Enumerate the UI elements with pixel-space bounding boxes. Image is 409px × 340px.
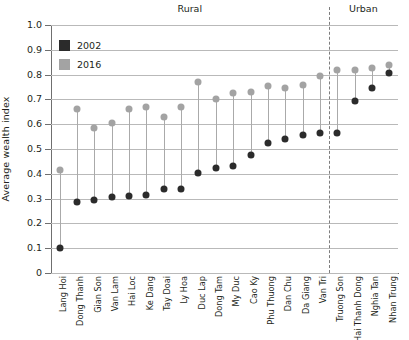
y-tick-label: 0.3 — [0, 193, 42, 204]
data-point-2016 — [368, 65, 375, 72]
y-tick-mark — [45, 50, 51, 51]
data-point-2002 — [108, 194, 115, 201]
x-tick-label: Cao Ky — [249, 276, 259, 304]
y-tick-label: 0.5 — [0, 143, 42, 154]
y-tick-mark — [45, 199, 51, 200]
stem — [285, 88, 286, 139]
stem — [164, 117, 165, 189]
gridline — [51, 248, 398, 249]
x-axis-tick-labels: Lang HoiDong ThanhGian SonVan LamHai Loc… — [51, 276, 398, 340]
data-point-2016 — [316, 72, 323, 79]
data-point-2002 — [386, 70, 393, 77]
stem — [198, 82, 199, 173]
x-tick-label: Van Tri — [318, 276, 328, 303]
data-point-2016 — [386, 61, 393, 68]
data-point-2016 — [56, 167, 63, 174]
data-point-2016 — [143, 103, 150, 110]
stem — [268, 86, 269, 143]
data-point-2016 — [108, 119, 115, 126]
data-point-2002 — [368, 85, 375, 92]
x-tick-label: Nhan Trung — [388, 276, 398, 323]
data-point-2002 — [178, 185, 185, 192]
gridline — [51, 199, 398, 200]
data-point-2002 — [316, 129, 323, 136]
data-point-2016 — [91, 124, 98, 131]
gridline — [51, 149, 398, 150]
gridline — [51, 50, 398, 51]
y-tick-label: 0.1 — [0, 242, 42, 253]
y-tick-mark — [45, 75, 51, 76]
data-point-2002 — [195, 169, 202, 176]
x-tick-label: Dong Thanh — [75, 276, 85, 326]
x-tick-label: Nghia Tan — [370, 276, 380, 316]
stem — [251, 92, 252, 155]
y-tick-mark — [45, 25, 51, 26]
wealth-index-dot-chart: Average wealth index 00.10.20.30.40.50.6… — [0, 0, 409, 340]
y-tick-mark — [45, 149, 51, 150]
x-tick-label: Da Giang — [301, 276, 311, 314]
legend-item[interactable]: 2002 — [59, 36, 101, 55]
x-tick-label: Tay Doai — [162, 276, 172, 311]
gridline — [51, 124, 398, 125]
x-tick-label: My Duc — [231, 276, 241, 307]
y-tick-mark — [45, 273, 51, 274]
stem — [77, 109, 78, 202]
y-tick-mark — [45, 99, 51, 100]
data-point-2016 — [178, 103, 185, 110]
gridline — [51, 99, 398, 100]
data-point-2016 — [334, 66, 341, 73]
data-point-2016 — [230, 90, 237, 97]
x-tick-label: Dan Chu — [283, 276, 293, 311]
rural-urban-divider — [329, 7, 330, 273]
data-point-2002 — [230, 163, 237, 170]
data-point-2002 — [282, 136, 289, 143]
stem — [129, 109, 130, 196]
group-header-rural: Rural — [178, 3, 203, 14]
legend-swatch — [59, 40, 70, 51]
data-point-2016 — [195, 79, 202, 86]
stem — [94, 128, 95, 200]
data-point-2016 — [247, 88, 254, 95]
legend-swatch — [59, 59, 70, 70]
legend-label: 2016 — [77, 59, 101, 70]
gridline — [51, 25, 398, 26]
x-tick-label: Hai Thanh Dong — [353, 276, 363, 340]
data-point-2002 — [334, 129, 341, 136]
x-tick-label: Truong Son — [335, 276, 345, 322]
stem — [146, 107, 147, 195]
y-tick-label: 1.0 — [0, 19, 42, 30]
stem — [337, 70, 338, 133]
data-point-2002 — [74, 199, 81, 206]
gridline — [51, 273, 398, 274]
data-point-2002 — [351, 97, 358, 104]
stem — [303, 85, 304, 136]
x-tick-label: Dong Tam — [214, 276, 224, 317]
legend-label: 2002 — [77, 40, 101, 51]
y-tick-label: 0.9 — [0, 44, 42, 55]
data-point-2002 — [160, 185, 167, 192]
y-tick-mark — [45, 124, 51, 125]
y-tick-label: 0.2 — [0, 217, 42, 228]
x-tick-label: Hai Loc — [127, 276, 137, 306]
data-point-2002 — [212, 164, 219, 171]
y-tick-mark — [45, 248, 51, 249]
x-tick-label: Phu Thuong — [266, 276, 276, 325]
data-point-2016 — [212, 96, 219, 103]
y-axis-tick-labels: 00.10.20.30.40.50.60.70.80.91.0 — [0, 25, 42, 273]
gridline — [51, 174, 398, 175]
legend: 20022016 — [59, 36, 101, 74]
plot-area: RuralUrban — [51, 25, 398, 273]
stem — [112, 123, 113, 197]
stem — [355, 70, 356, 101]
y-tick-mark — [45, 174, 51, 175]
x-tick-label: Gian Son — [93, 276, 103, 313]
legend-item[interactable]: 2016 — [59, 55, 101, 74]
data-point-2016 — [299, 81, 306, 88]
data-point-2016 — [126, 106, 133, 113]
data-point-2016 — [282, 85, 289, 92]
data-point-2002 — [247, 152, 254, 159]
data-point-2016 — [264, 82, 271, 89]
data-point-2002 — [264, 139, 271, 146]
data-point-2016 — [160, 113, 167, 120]
data-point-2002 — [299, 132, 306, 139]
